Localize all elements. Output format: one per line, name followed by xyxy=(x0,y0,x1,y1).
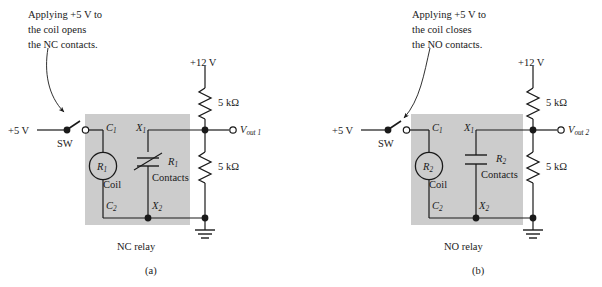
resistor-top-symbol-b xyxy=(527,88,539,119)
rail-label-b: +12 V xyxy=(518,56,544,70)
switch-label-b: SW xyxy=(378,137,394,151)
annotation-text-b: Applying +5 V to the coil closes the NO … xyxy=(412,8,486,53)
annotation-arrow-b xyxy=(404,48,430,118)
annotation-arrow-a xyxy=(47,48,64,112)
contacts-designator-a: R1 xyxy=(168,155,178,170)
contacts-designator-b: R2 xyxy=(496,152,506,167)
resistor-bottom-symbol-a xyxy=(199,152,211,183)
relay-name-label-b: NO relay xyxy=(444,240,483,254)
output-terminal-b[interactable] xyxy=(558,127,564,133)
supply-label-a: +5 V xyxy=(8,124,29,138)
resistor-bottom-label-a: 5 kΩ xyxy=(218,160,239,174)
switch-throw-terminal-a[interactable] xyxy=(82,127,88,133)
switch-label-a: SW xyxy=(57,137,73,151)
rail-label-a: +12 V xyxy=(190,56,216,70)
coil-designator-a: R1 xyxy=(97,160,107,175)
contacts-name-label-b: Contacts xyxy=(481,168,518,182)
switch-lever-a[interactable] xyxy=(68,121,80,129)
coil-designator-b: R2 xyxy=(423,160,433,175)
terminal-c1-label-b: C1 xyxy=(432,121,443,136)
terminal-c2-label-a: C2 xyxy=(106,199,117,214)
output-terminal-a[interactable] xyxy=(230,127,236,133)
terminal-x2-label-b: X2 xyxy=(479,199,489,214)
supply-label-b: +5 V xyxy=(332,124,353,138)
terminal-c2-label-b: C2 xyxy=(432,199,443,214)
terminal-x2-label-a: X2 xyxy=(152,199,162,214)
resistor-bottom-label-b: 5 kΩ xyxy=(546,160,567,174)
coil-name-label-a: Coil xyxy=(103,178,121,192)
output-label-a: Vout 1 xyxy=(240,123,261,138)
terminal-x1-label-a: X1 xyxy=(136,121,146,136)
coil-name-label-b: Coil xyxy=(429,178,447,192)
panel-caption-b: (b) xyxy=(472,265,484,276)
relay-circuit-figure: Applying +5 V to the coil opens the NC c… xyxy=(0,0,602,287)
resistor-top-label-a: 5 kΩ xyxy=(218,96,239,110)
terminal-c1-label-a: C1 xyxy=(106,121,117,136)
switch-throw-terminal-b[interactable] xyxy=(403,127,409,133)
panel-caption-a: (a) xyxy=(145,265,157,276)
resistor-top-label-b: 5 kΩ xyxy=(546,96,567,110)
annotation-text-a: Applying +5 V to the coil opens the NC c… xyxy=(28,8,102,53)
relay-name-label-a: NC relay xyxy=(117,240,155,254)
output-label-b: Vout 2 xyxy=(568,123,589,138)
contacts-name-label-a: Contacts xyxy=(152,171,189,185)
resistor-top-symbol-a xyxy=(199,88,211,119)
terminal-x1-label-b: X1 xyxy=(464,121,474,136)
switch-lever-b[interactable] xyxy=(389,121,401,129)
resistor-bottom-symbol-b xyxy=(527,152,539,183)
